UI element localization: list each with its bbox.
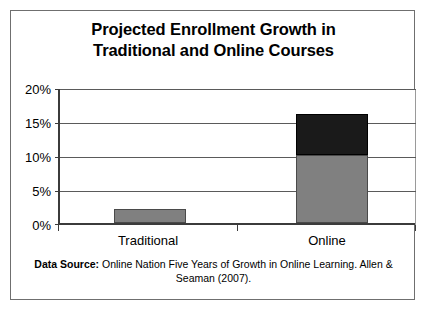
chart-title-line-1: Projected Enrollment Growth in — [11, 19, 416, 40]
y-tick-label-20: 20% — [25, 83, 51, 96]
chart-title-line-2: Traditional and Online Courses — [11, 40, 416, 61]
y-tick-label-10: 10% — [25, 151, 51, 164]
y-tick-label-5: 5% — [32, 185, 51, 198]
chart-figure: Projected Enrollment Growth in Tradition… — [10, 10, 415, 300]
x-category-label-traditional: Traditional — [118, 233, 178, 248]
y-tickmark-15 — [55, 123, 60, 124]
y-tickmark-10 — [55, 157, 60, 158]
bar-online-segment-additional — [296, 114, 368, 155]
y-tickmark-5 — [55, 191, 60, 192]
chart-title: Projected Enrollment Growth in Tradition… — [11, 19, 416, 61]
plot-area — [58, 89, 416, 225]
x-category-label-online: Online — [308, 233, 346, 248]
source-note-text: Online Nation Five Years of Growth in On… — [99, 258, 393, 284]
gridline-20 — [60, 89, 416, 90]
bar-traditional-segment-base — [114, 209, 186, 223]
y-tick-label-15: 15% — [25, 117, 51, 130]
source-note-label: Data Source: — [34, 258, 99, 270]
source-note: Data Source: Online Nation Five Years of… — [25, 257, 402, 285]
x-tickmark-middle — [237, 225, 238, 231]
x-tickmark-right — [415, 225, 416, 231]
y-tickmark-20 — [55, 89, 60, 90]
x-axis: Traditional Online — [58, 225, 416, 251]
y-tick-label-0: 0% — [32, 219, 51, 232]
bar-online-segment-base — [296, 155, 368, 223]
x-tickmark-left — [58, 225, 59, 231]
y-axis-tick-labels: 0% 5% 10% 15% 20% — [11, 89, 55, 225]
plot-wrapper: 0% 5% 10% 15% 20% — [11, 89, 416, 249]
